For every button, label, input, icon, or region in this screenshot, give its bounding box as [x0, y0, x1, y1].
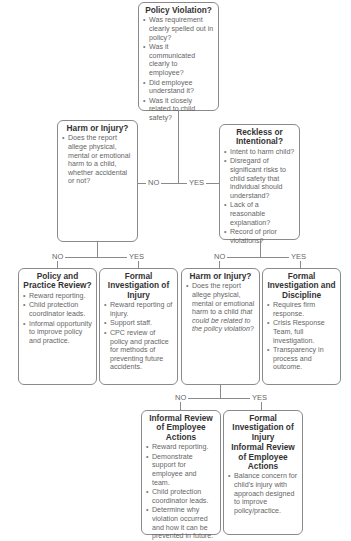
edge-label-yes: YES: [250, 394, 269, 402]
bullet: Requires firm response.: [267, 301, 336, 318]
edge-label-yes: YES: [127, 253, 146, 261]
node-policy-violation: Policy Violation? Was requirement clearl…: [138, 2, 219, 111]
bullet: Child protection coordinator leads.: [23, 301, 92, 318]
bullet: Reward reporting.: [23, 292, 92, 301]
bullet: Determine why violation occurred and how…: [146, 506, 216, 540]
node-formal-injury-informal-review: Formal Investigation of Injury Informal …: [223, 410, 303, 535]
bullet: Demonstrate support for employee and tea…: [146, 453, 216, 487]
node-subtitle: Informal Review of Employee Actions: [228, 443, 298, 471]
bullet: Support staff.: [104, 319, 173, 328]
edge-label-no: NO: [50, 253, 65, 261]
bullet: Balance concern for child's injury with …: [228, 472, 298, 515]
edge-label-yes: YES: [187, 179, 206, 187]
node-formal-investigation-injury: Formal Investigation of Injury Reward re…: [99, 268, 178, 385]
node-harm-or-injury: Harm or Injury? Does the report allege p…: [57, 120, 138, 242]
bullet: Record of prior violations?: [224, 228, 295, 245]
bullet: Lack of a reasonable explanation?: [224, 201, 295, 227]
node-title: Formal Investigation of Injury: [104, 272, 173, 300]
bullet: Does the report allege physical, mental …: [186, 282, 255, 334]
bullet: Transparency in process and outcome.: [267, 346, 336, 372]
edge-label-yes: YES: [289, 253, 308, 261]
bullet: CPC review of policy and practice for me…: [104, 329, 173, 372]
node-formal-investigation-discipline: Formal Investigation and Discipline Requ…: [262, 268, 341, 385]
edge-label-no: NO: [173, 394, 188, 402]
bullet: Informal opportunity to improve policy a…: [23, 320, 92, 346]
node-title: Harm or Injury?: [62, 124, 133, 133]
bullet: Was it communicated clearly to employee?: [143, 43, 214, 77]
node-title: Harm or Injury?: [186, 272, 255, 281]
connector-line: [220, 385, 221, 398]
bullet: Was requirement clearly spelled out in p…: [143, 16, 214, 42]
edge-label-no: NO: [146, 179, 161, 187]
node-harm-or-injury-related: Harm or Injury? Does the report allege p…: [181, 268, 260, 385]
bullet: Does the report allege physical, mental …: [62, 134, 133, 186]
node-informal-review: Informal Review of Employee Actions Rewa…: [141, 410, 221, 535]
node-title: Formal Investigation and Discipline: [267, 272, 336, 300]
node-title: Policy Violation?: [143, 6, 214, 15]
bullet: Child protection coordinator leads.: [146, 488, 216, 505]
node-reckless-or-intentional: Reckless or Intentional? Intent to harm …: [219, 124, 300, 240]
bullet: Was it closely related to child safety?: [143, 97, 214, 123]
node-title: Reckless or Intentional?: [224, 128, 295, 147]
bullet: Disregard of significant risks to child …: [224, 157, 295, 200]
edge-label-no: NO: [212, 253, 227, 261]
node-title: Policy and Practice Review?: [23, 272, 92, 291]
node-title: Informal Review of Employee Actions: [146, 414, 216, 442]
bullet: Reward reporting.: [146, 443, 216, 452]
node-title: Formal Investigation of Injury: [228, 414, 298, 442]
connector-line: [97, 242, 98, 257]
node-policy-practice-review: Policy and Practice Review? Reward repor…: [18, 268, 97, 385]
bullet: Intent to harm child?: [224, 148, 295, 157]
bullet: Did employee understand it?: [143, 79, 214, 96]
bullet: Crisis Response Team, full investigation…: [267, 319, 336, 345]
bullet: Reward reporting of injury.: [104, 301, 173, 318]
